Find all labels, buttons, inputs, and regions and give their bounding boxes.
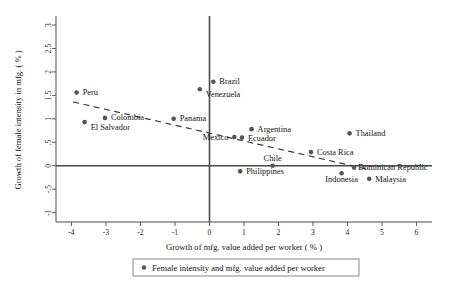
x-tick-label: -4 <box>68 228 75 237</box>
y-tick-label: 3 <box>44 23 53 27</box>
data-point: Panama <box>171 114 206 123</box>
data-point-marker <box>309 150 314 155</box>
data-point-marker <box>352 165 357 170</box>
data-point: Peru <box>74 88 98 97</box>
data-point: Argentina <box>249 125 291 134</box>
data-point-label: Malaysia <box>375 175 406 184</box>
x-axis-title: Growth of mfg. value added per worker ( … <box>166 242 322 252</box>
data-point: Indonesia <box>325 171 358 185</box>
data-point-marker <box>211 79 216 84</box>
data-point-marker <box>232 135 237 140</box>
y-tick-label: 1 <box>44 117 53 121</box>
data-point: Mexico <box>203 133 237 142</box>
data-point-marker <box>82 120 87 125</box>
x-tick-label: 4 <box>346 228 350 237</box>
data-point: Ecuador <box>240 134 276 143</box>
data-point-marker <box>171 117 176 122</box>
data-point: Dominican Republic <box>352 163 428 172</box>
data-point: Thailand <box>347 129 386 138</box>
data-points-layer: PeruEl SalvadorColombiaPanamaBrazilVenez… <box>74 77 427 184</box>
data-point-label: Dominican Republic <box>358 163 428 172</box>
data-point-label: Philippines <box>246 167 284 176</box>
data-point: Philippines <box>238 167 284 176</box>
y-tick-label: 2 <box>44 70 53 74</box>
x-tick-label: -3 <box>103 228 110 237</box>
data-point-label: Argentina <box>258 125 292 134</box>
x-tick-label: 5 <box>380 228 384 237</box>
y-tick-label: .5 <box>44 139 53 145</box>
y-tick-label: 0 <box>44 164 53 168</box>
x-tick-label: 1 <box>242 228 246 237</box>
data-point-marker <box>198 87 203 92</box>
x-tick-label: 2 <box>277 228 281 237</box>
y-tick-label: -1 <box>44 209 53 216</box>
data-point-label: Mexico <box>203 133 229 142</box>
scatter-plot-svg: -1-.50.511.522.53-4-3-2-10123456 PeruEl … <box>0 0 450 293</box>
x-tick-label: 0 <box>208 228 212 237</box>
data-point: Venezuela <box>198 87 241 99</box>
x-tick-label: -2 <box>137 228 144 237</box>
x-tick-label: -1 <box>172 228 179 237</box>
data-point-label: Ecuador <box>248 134 276 143</box>
x-tick-label: 6 <box>415 228 419 237</box>
data-point-label: Indonesia <box>325 175 358 184</box>
data-point-label: El Salvador <box>91 123 131 132</box>
data-point-marker <box>367 177 372 182</box>
data-point-marker <box>249 127 254 132</box>
data-point-marker <box>74 90 79 95</box>
data-point-marker <box>240 135 245 140</box>
data-point-label: Brazil <box>219 77 240 86</box>
data-point-marker <box>103 116 108 121</box>
y-tick-label: 2.5 <box>44 44 53 54</box>
data-point: Colombia <box>103 113 145 122</box>
data-point-label: Thailand <box>356 129 387 138</box>
legend-marker <box>142 265 146 269</box>
data-point-label: Peru <box>83 88 99 97</box>
data-point-label: Venezuela <box>206 90 241 99</box>
x-tick-label: 3 <box>311 228 315 237</box>
legend-label: Female intensity and mfg. value added pe… <box>152 263 325 273</box>
data-point-label: Costa Rica <box>317 148 354 157</box>
y-tick-label: 1.5 <box>44 90 53 100</box>
scatter-plot-figure: -1-.50.511.522.53-4-3-2-10123456 PeruEl … <box>0 0 450 293</box>
data-point: Costa Rica <box>309 148 354 157</box>
data-point: Malaysia <box>367 175 406 184</box>
y-tick-label: -.5 <box>44 185 53 193</box>
legend: Female intensity and mfg. value added pe… <box>133 259 359 276</box>
y-axis-title: Growth of female intensity in mfg. ( % ) <box>13 50 23 189</box>
data-point-label: Chile <box>264 154 282 163</box>
data-point-marker <box>347 131 352 136</box>
data-point-label: Panama <box>180 114 207 123</box>
data-point: Brazil <box>211 77 240 86</box>
data-point-label: Colombia <box>111 113 144 122</box>
data-point-marker <box>238 169 243 174</box>
